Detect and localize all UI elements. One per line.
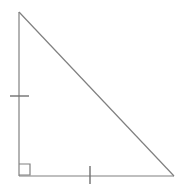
right-triangle-diagram xyxy=(0,0,177,185)
figure-background xyxy=(0,0,177,185)
figure-container: Right triangle with right angle marker a… xyxy=(0,0,177,185)
